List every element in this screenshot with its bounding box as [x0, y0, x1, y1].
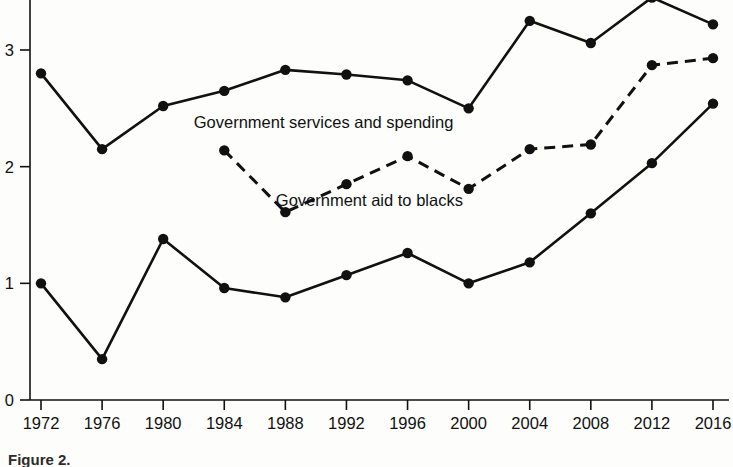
data-point [219, 86, 229, 96]
y-tick-label: 1 [5, 274, 14, 292]
data-point [586, 38, 596, 48]
data-point [36, 278, 46, 288]
x-tick-label: 1988 [267, 414, 304, 432]
data-point [341, 69, 351, 79]
x-tick-label: 1980 [145, 414, 182, 432]
data-point [97, 354, 107, 364]
data-point [36, 68, 46, 78]
x-axis-ticks: 1972197619801984198819921996200020042008… [23, 400, 732, 432]
data-point [402, 75, 412, 85]
x-tick-label: 2000 [450, 414, 487, 432]
x-tick-label: 1992 [328, 414, 365, 432]
y-tick-label: 2 [5, 158, 14, 176]
x-tick-label: 2008 [572, 414, 609, 432]
data-point [525, 257, 535, 267]
series-markers [36, 0, 718, 364]
series-line-2 [41, 104, 713, 360]
data-point [402, 248, 412, 258]
data-point [219, 283, 229, 293]
data-point [280, 65, 290, 75]
x-tick-label: 1976 [84, 414, 121, 432]
series-paths [41, 0, 713, 359]
data-point [525, 144, 535, 154]
x-tick-label: 1996 [389, 414, 426, 432]
data-point [647, 60, 657, 70]
y-tick-label: 3 [5, 41, 14, 59]
y-axis-ticks: 0123 [5, 41, 30, 409]
data-point [158, 234, 168, 244]
data-point [341, 270, 351, 280]
x-tick-label: 1984 [206, 414, 243, 432]
x-tick-label: 1972 [23, 414, 60, 432]
series-annotations: Government services and spendingGovernme… [194, 113, 463, 209]
data-point [402, 151, 412, 161]
data-point [708, 53, 718, 63]
series-annotation: Government aid to blacks [276, 191, 463, 209]
figure-caption: Figure 2. [8, 451, 71, 467]
x-tick-label: 2012 [634, 414, 671, 432]
y-tick-label: 0 [5, 391, 14, 409]
data-point [463, 278, 473, 288]
data-point [647, 158, 657, 168]
data-point [586, 139, 596, 149]
series-annotation: Government services and spending [194, 113, 454, 131]
data-point [525, 16, 535, 26]
data-point [463, 184, 473, 194]
data-point [708, 19, 718, 29]
x-tick-label: 2004 [511, 414, 548, 432]
data-point [158, 101, 168, 111]
data-point [219, 145, 229, 155]
data-point [280, 292, 290, 302]
data-point [341, 179, 351, 189]
data-point [586, 208, 596, 218]
data-point [463, 103, 473, 113]
x-tick-label: 2016 [695, 414, 732, 432]
data-point [97, 144, 107, 154]
data-point [708, 98, 718, 108]
